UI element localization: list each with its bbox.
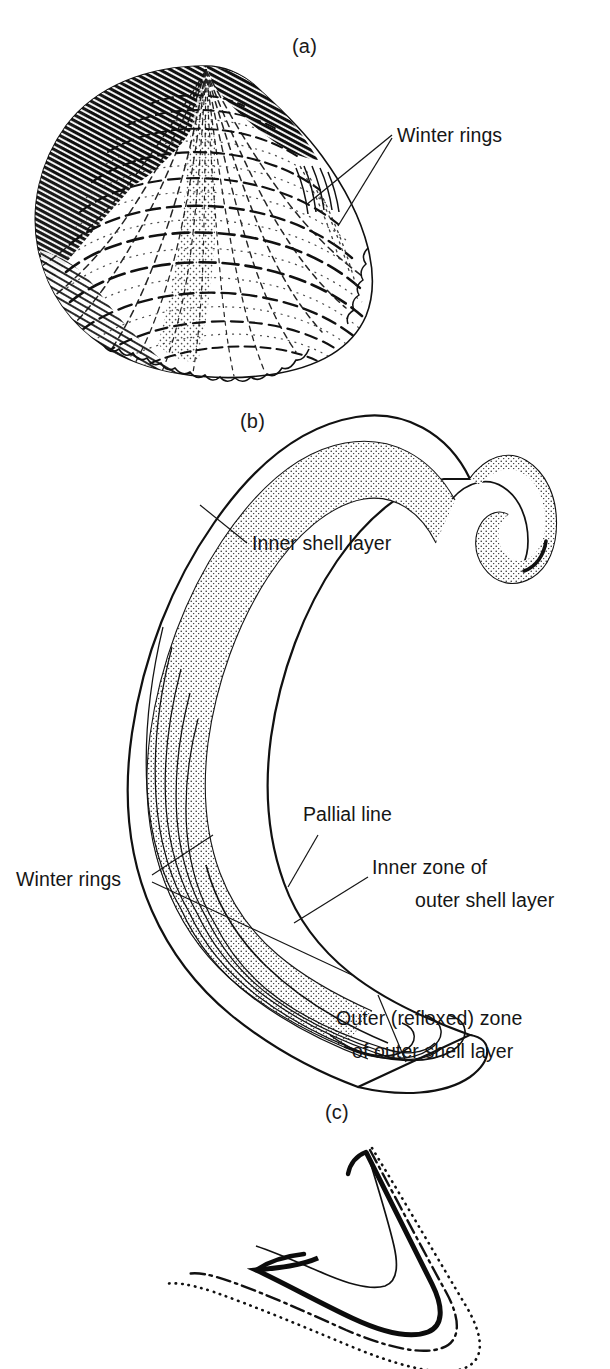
- pallial-line-leader: [288, 835, 318, 887]
- panel-b-drawing: [0, 395, 610, 1085]
- inner-shell-layer-band: [120, 415, 520, 1095]
- panel-c-label: (c): [325, 1102, 349, 1122]
- inner-zone-label-line2: outer shell layer: [415, 889, 554, 912]
- inner-zone-label-line1: Inner zone of: [372, 856, 487, 879]
- figure-bivalve-shell-growth: (a): [0, 0, 610, 1369]
- stage-1-outline-solid: [256, 1152, 440, 1335]
- winter-rings-label-b: Winter rings: [16, 868, 121, 891]
- winter-rings-label-a: Winter rings: [397, 124, 502, 147]
- outer-reflexed-zone-label-line2: of outer shell layer: [352, 1040, 513, 1063]
- panel-a-drawing: [0, 0, 610, 400]
- panel-a: (a): [0, 0, 610, 400]
- inner-zone-leader: [294, 877, 368, 923]
- outer-reflexed-zone-label-line1: Outer (reflexed) zone: [336, 1007, 522, 1030]
- panel-c-drawing: [0, 1080, 610, 1369]
- panel-b-label: (b): [240, 411, 265, 431]
- stage-3-outline-dotted: [166, 1148, 480, 1369]
- pallial-line-label: Pallial line: [303, 803, 392, 826]
- panel-a-label: (a): [292, 36, 317, 56]
- inner-shell-layer-label: Inner shell layer: [252, 532, 391, 555]
- panel-c: (c): [0, 1080, 610, 1369]
- panel-b: (b): [0, 395, 610, 1085]
